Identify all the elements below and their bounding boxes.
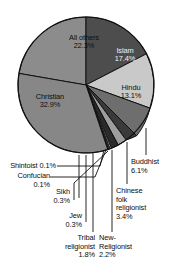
leader-line-confucian [50,150,106,177]
callout-label-buddhist-value: 6.1% [131,167,177,176]
callout-label-tribal-religionist: Tribal religionist 1.8% [33,234,95,260]
callout-label-shintoist-value: 0.1% [40,161,56,170]
callout-label-buddhist: Buddhist 6.1% [131,158,177,175]
callout-label-shintoist-name: Shintoist [10,161,37,170]
callout-label-sikh-value: 0.3% [40,197,70,206]
callout-label-jew-value: 0.3% [48,221,82,230]
callout-label-confucian: Confucian 0.1% [0,172,50,189]
callout-label-new-religionist: New- Religionist 2.2% [99,234,155,260]
callout-label-tribal-value: 1.8% [33,251,95,260]
callout-label-confucian-value: 0.1% [0,181,50,190]
slice-label-hindu: Hindu 13.1% [109,84,153,101]
pie-chart: All others 22.3% Islam 17.4% Hindu 13.1%… [0,0,177,265]
callout-label-jew: Jew 0.3% [48,212,82,229]
slice-label-hindu-value: 13.1% [109,92,153,100]
slice-label-islam-value: 17.4% [102,55,148,63]
callout-label-chinese-folk-value: 3.4% [116,213,176,222]
callout-label-shintoist: Shintoist 0.1% [0,162,56,171]
callout-label-new-religionist-value: 2.2% [99,251,155,260]
slice-label-christian-value: 32.9% [21,101,79,109]
callout-label-chinese-folk-religionist: Chinese folk religionist 3.4% [116,187,176,221]
callout-label-sikh: Sikh 0.3% [40,188,70,205]
slice-label-christian: Christian 32.9% [21,93,79,110]
slice-label-islam: Islam 17.4% [102,47,148,64]
